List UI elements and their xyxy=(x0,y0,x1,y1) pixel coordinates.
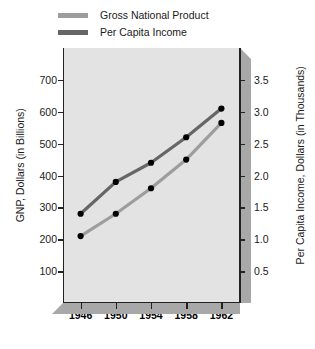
left-axis-tick-label: 500 xyxy=(39,139,57,150)
x-axis-tick-mark xyxy=(221,303,222,309)
plot-bevel-right-top xyxy=(240,48,251,59)
legend-label-gnp: Gross National Product xyxy=(100,10,209,21)
legend-label-per-capita-income: Per Capita Income xyxy=(100,27,187,38)
right-axis-tick-mark xyxy=(239,112,245,113)
right-axis-tick-mark xyxy=(239,144,245,145)
series-plot xyxy=(63,48,239,303)
legend-swatch-per-capita-income xyxy=(58,30,88,35)
x-axis-tick-mark xyxy=(116,303,117,309)
chart-legend: Gross National Product Per Capita Income xyxy=(58,7,298,41)
right-axis-tick-label: 2.0 xyxy=(254,171,269,182)
x-axis-tick-mark xyxy=(81,303,82,309)
left-axis-tick-label: 300 xyxy=(39,202,57,213)
data-point-marker xyxy=(113,211,119,217)
right-axis-tick-mark xyxy=(239,80,245,81)
right-axis-tick-label: 1.0 xyxy=(254,234,269,245)
left-axis-tick-label: 400 xyxy=(39,171,57,182)
left-axis-tick-labels: 100200300400500600700 xyxy=(25,48,57,303)
right-axis-tick-labels: 0.51.01.52.02.53.03.5 xyxy=(254,48,282,303)
plot-block xyxy=(63,48,239,303)
plot-bevel-bottom-left xyxy=(52,303,63,314)
legend-swatch-gnp xyxy=(58,13,88,18)
chart-figure: Gross National Product Per Capita Income… xyxy=(0,0,315,349)
left-axis-tick-label: 600 xyxy=(39,107,57,118)
right-axis-tick-mark xyxy=(239,271,245,272)
data-point-marker xyxy=(78,211,84,217)
right-axis-tick-mark xyxy=(239,207,245,208)
plot-bevel-right xyxy=(240,59,251,303)
data-point-marker xyxy=(183,156,189,162)
series-line-gnp xyxy=(81,123,222,236)
right-axis-title: Per Capita Income, Dollars (in Thousands… xyxy=(295,65,306,265)
left-axis-tick-label: 700 xyxy=(39,75,57,86)
x-axis-tick-mark xyxy=(186,303,187,309)
data-point-marker xyxy=(148,185,154,191)
right-axis-tick-label: 1.5 xyxy=(254,202,269,213)
legend-item-gnp: Gross National Product xyxy=(58,7,298,24)
left-axis-title: GNP, Dollars (in Billions) xyxy=(15,65,26,265)
data-point-marker xyxy=(218,105,224,111)
data-point-marker xyxy=(148,160,154,166)
left-axis-tick-label: 100 xyxy=(39,266,57,277)
data-point-marker xyxy=(218,120,224,126)
left-axis-tick-label: 200 xyxy=(39,234,57,245)
right-axis-tick-label: 3.0 xyxy=(254,107,269,118)
right-axis-tick-mark xyxy=(239,239,245,240)
data-point-marker xyxy=(113,179,119,185)
right-axis-tick-label: 0.5 xyxy=(254,266,269,277)
legend-item-per-capita-income: Per Capita Income xyxy=(58,24,298,41)
right-axis-tick-label: 3.5 xyxy=(254,75,269,86)
data-point-marker xyxy=(183,134,189,140)
right-axis-tick-label: 2.5 xyxy=(254,139,269,150)
data-point-marker xyxy=(78,233,84,239)
x-axis-tick-mark xyxy=(151,303,152,309)
right-axis-tick-mark xyxy=(239,176,245,177)
